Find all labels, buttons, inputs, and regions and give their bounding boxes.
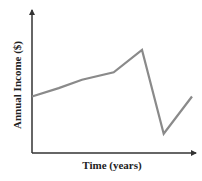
line-chart [0,0,202,181]
income-line [32,50,192,134]
x-axis-label: Time (years) [82,159,141,171]
y-axis-label: Annual Income ($) [11,41,23,129]
